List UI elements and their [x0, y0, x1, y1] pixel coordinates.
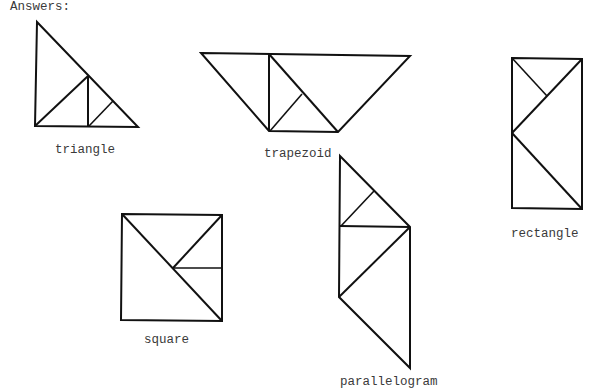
parallelogram-figure	[339, 156, 410, 368]
parallelogram-inner-horizontal	[340, 226, 410, 227]
square-inner-short-diagonal	[173, 215, 222, 268]
triangle-inner-diagonal	[35, 76, 88, 126]
rectangle-inner-small	[512, 58, 547, 96]
rectangle-outline	[512, 58, 582, 209]
triangle-figure	[35, 22, 138, 127]
rectangle-inner-diagonal-lower	[512, 133, 582, 209]
trapezoid-figure	[201, 53, 410, 132]
trapezoid-outline	[201, 53, 410, 132]
trapezoid-inner-small	[270, 94, 302, 131]
rectangle-figure	[512, 58, 582, 209]
parallelogram-inner-small	[341, 191, 374, 226]
parallelogram-inner-diagonal	[339, 227, 410, 297]
triangle-inner-small	[89, 101, 113, 126]
square-figure	[121, 214, 222, 321]
